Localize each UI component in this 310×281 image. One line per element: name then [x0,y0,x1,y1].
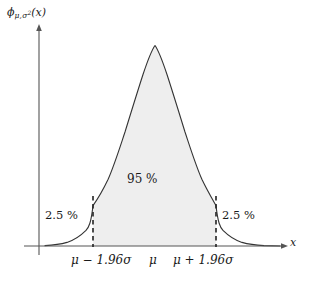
left-tail-probability-label: 2.5 % [45,208,78,222]
x-axis-label: x [290,236,296,249]
x-axis-arrowhead [281,243,288,249]
shaded-confidence-region [93,46,216,247]
phi-symbol: ϕ [7,6,15,19]
chart-canvas [0,0,310,281]
center-probability-label: 95 % [127,172,158,186]
normal-distribution-figure: ϕμ,σ2(x) x 95 % 2.5 % 2.5 % μ − 1.96σ μ … [0,0,310,281]
y-axis-argument: (x) [31,6,46,19]
x-tick-label-upper-bound: μ + 1.96σ [173,253,233,267]
x-tick-label-lower-bound: μ − 1.96σ [71,253,131,267]
right-tail-probability-label: 2.5 % [222,208,255,222]
y-axis-arrowhead [36,24,42,31]
x-tick-label-mean: μ [149,253,157,267]
y-axis-label: ϕμ,σ2(x) [7,6,46,20]
